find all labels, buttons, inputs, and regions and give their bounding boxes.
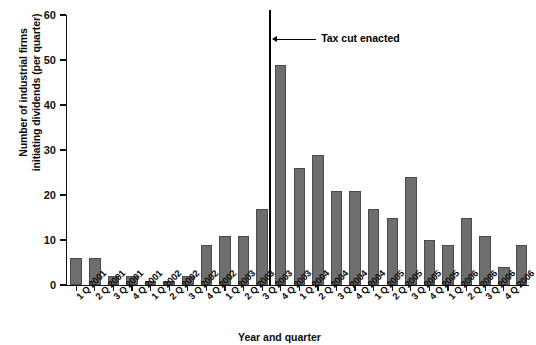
bar-rect — [312, 155, 324, 286]
x-axis-title: Year and quarter — [238, 331, 321, 343]
bar — [442, 15, 454, 285]
bar — [89, 15, 101, 285]
bar — [219, 15, 231, 285]
y-axis-tick-label: 10 — [28, 235, 56, 245]
y-axis-tick-label: 0 — [28, 280, 56, 290]
bar — [424, 15, 436, 285]
bar-chart: Number of industrial firms initiating di… — [0, 0, 536, 345]
bar — [126, 15, 138, 285]
bar — [238, 15, 250, 285]
bar-series — [66, 15, 528, 285]
bar — [108, 15, 120, 285]
bar — [331, 15, 343, 285]
plot-area — [66, 15, 528, 285]
bar — [368, 15, 380, 285]
bar — [498, 15, 510, 285]
bar — [312, 15, 324, 285]
bar-rect — [70, 258, 82, 285]
bar — [70, 15, 82, 285]
bar — [387, 15, 399, 285]
bar — [461, 15, 473, 285]
y-axis-tick-label: 30 — [28, 145, 56, 155]
bar-trailing — [516, 15, 528, 285]
bar — [349, 15, 361, 285]
bar — [405, 15, 417, 285]
bar — [256, 15, 268, 285]
bar — [145, 15, 157, 285]
bar-rect — [275, 65, 287, 286]
bar — [201, 15, 213, 285]
y-axis-tick-label: 40 — [28, 100, 56, 110]
bar — [294, 15, 306, 285]
y-axis-tick-label: 20 — [28, 190, 56, 200]
y-axis-tick-label: 60 — [28, 10, 56, 20]
annotation-leader-line — [276, 39, 316, 40]
tax-cut-event-line — [269, 10, 271, 285]
bar — [479, 15, 491, 285]
y-axis-tick-label: 50 — [28, 55, 56, 65]
bar — [182, 15, 194, 285]
bar — [163, 15, 175, 285]
bar-rect — [294, 168, 306, 285]
annotation-label: Tax cut enacted — [321, 32, 400, 44]
bar — [275, 15, 287, 285]
